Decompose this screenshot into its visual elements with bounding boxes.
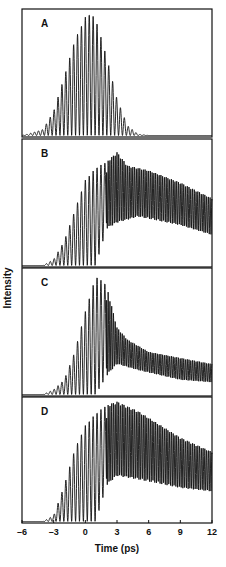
x-tick-label: 9 xyxy=(178,527,183,537)
signal-trace xyxy=(22,402,212,522)
x-tick-label: 3 xyxy=(114,527,119,537)
x-tick-label: 12 xyxy=(207,527,217,537)
signal-trace xyxy=(22,152,212,265)
x-axis-label: Time (ps) xyxy=(95,543,139,554)
x-tick-label: 6 xyxy=(146,527,151,537)
panel-label: B xyxy=(41,148,48,159)
panel-label: C xyxy=(41,277,48,288)
panel-label: A xyxy=(41,18,48,29)
figure: ABCD –6–3036912 Time (ps) Intensity xyxy=(0,0,226,567)
panel-b: B xyxy=(22,139,212,267)
panels: ABCD xyxy=(22,9,212,523)
panel-c: C xyxy=(22,268,212,396)
panel-label: D xyxy=(41,406,48,417)
signal-trace xyxy=(22,15,212,135)
x-tick-label: –6 xyxy=(17,527,27,537)
x-tick-label: 0 xyxy=(83,527,88,537)
panel-d: D xyxy=(22,397,212,523)
y-axis-label: Intensity xyxy=(2,267,13,309)
x-tick-label: –3 xyxy=(49,527,59,537)
panel-a: A xyxy=(22,9,212,137)
signal-trace xyxy=(22,278,212,395)
